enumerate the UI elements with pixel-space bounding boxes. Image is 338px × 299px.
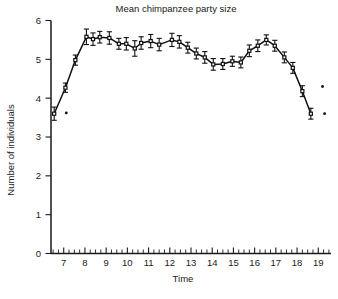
y-tick-label: 5 — [36, 54, 41, 65]
data-marker — [85, 35, 88, 38]
x-tick-label: 11 — [144, 257, 154, 268]
error-bar-group — [52, 29, 314, 120]
stray-point — [323, 112, 326, 115]
data-marker — [256, 44, 259, 47]
y-tick-label-group: 0123456 — [36, 15, 41, 259]
y-tick-label: 4 — [36, 93, 41, 104]
stray-point-group — [65, 85, 326, 115]
data-marker — [108, 36, 111, 39]
x-tick-label-group: 78910111213141516171819 — [61, 257, 323, 268]
data-marker — [91, 38, 94, 41]
data-marker — [117, 42, 120, 45]
data-marker — [98, 36, 101, 39]
y-tick-label: 2 — [36, 170, 41, 181]
data-marker — [309, 112, 312, 115]
data-marker — [212, 63, 215, 66]
plot-area — [52, 29, 326, 120]
x-tick-label: 19 — [313, 257, 324, 268]
y-tick-label: 0 — [36, 248, 41, 259]
data-marker — [158, 43, 161, 46]
x-tick-label: 15 — [228, 257, 239, 268]
x-tick-label: 9 — [104, 257, 109, 268]
y-tick-label: 6 — [36, 15, 41, 26]
data-marker — [149, 40, 152, 43]
y-tick-group — [46, 21, 52, 254]
chart-canvas: Mean chimpanzee party size Number of ind… — [0, 0, 338, 299]
data-marker — [186, 46, 189, 49]
data-marker — [301, 90, 304, 93]
x-axis: 78910111213141516171819 — [51, 248, 331, 269]
y-axis-title: Number of individuals — [5, 104, 16, 196]
stray-point — [65, 112, 68, 115]
data-marker — [273, 44, 276, 47]
data-marker — [221, 62, 224, 65]
data-marker-group — [53, 35, 313, 115]
data-marker — [195, 52, 198, 55]
data-marker — [203, 56, 206, 59]
data-marker — [265, 38, 268, 41]
chart-figure: Mean chimpanzee party size Number of ind… — [0, 0, 338, 299]
series-line — [54, 37, 311, 114]
y-tick-label: 1 — [36, 209, 41, 220]
y-axis: 0123456 — [36, 15, 51, 259]
x-tick-label: 16 — [249, 257, 260, 268]
data-marker — [170, 38, 173, 41]
data-marker — [291, 66, 294, 69]
x-tick-label: 12 — [164, 257, 175, 268]
data-marker — [133, 47, 136, 50]
data-marker — [140, 41, 143, 44]
x-tick-label: 7 — [61, 257, 66, 268]
data-marker — [53, 112, 56, 115]
x-tick-label: 17 — [271, 257, 282, 268]
x-tick-label: 13 — [186, 257, 197, 268]
x-tick-label: 8 — [82, 257, 87, 268]
data-marker — [239, 61, 242, 64]
x-tick-label: 14 — [207, 257, 218, 268]
data-marker — [231, 60, 234, 63]
x-tick-label: 18 — [292, 257, 303, 268]
data-marker — [125, 42, 128, 45]
data-marker — [64, 86, 67, 89]
x-tick-label: 10 — [122, 257, 133, 268]
data-marker — [178, 40, 181, 43]
chart-title: Mean chimpanzee party size — [116, 3, 237, 14]
data-marker — [283, 56, 286, 59]
data-marker — [74, 59, 77, 62]
y-tick-label: 3 — [36, 131, 41, 142]
x-axis-title: Time — [173, 273, 194, 284]
x-tick-group — [64, 248, 319, 254]
data-marker — [248, 49, 251, 52]
stray-point — [321, 85, 324, 88]
